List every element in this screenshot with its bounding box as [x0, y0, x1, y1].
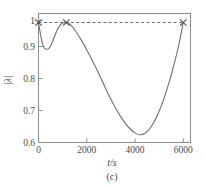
y-tick-label: 1 [30, 16, 35, 26]
x-axis-ticks [39, 139, 184, 143]
x-tick-label: 6000 [174, 145, 193, 155]
x-axis-label: t/s [107, 157, 117, 168]
x-tick-label: 2000 [77, 145, 96, 155]
y-tick-label: 0.8 [23, 74, 35, 84]
y-tick-label: 0.7 [23, 106, 35, 116]
x-tick-label: 4000 [126, 145, 145, 155]
x-tick-label: 0 [36, 145, 41, 155]
y-axis-label: |λ| [2, 75, 13, 85]
y-tick-label: 0.6 [23, 138, 35, 148]
y-axis-tick-labels: 0.6 0.7 0.8 0.9 1 [23, 16, 35, 148]
plot-area-frame [39, 14, 191, 143]
chart-figure: 0.6 0.7 0.8 0.9 1 0 2000 4000 6000 |λ| t… [0, 0, 206, 185]
y-tick-label: 0.9 [23, 42, 35, 52]
figure-caption: (c) [106, 171, 117, 183]
eigenvalue-magnitude-curve [39, 22, 184, 134]
x-axis-tick-labels: 0 2000 4000 6000 [36, 145, 193, 155]
